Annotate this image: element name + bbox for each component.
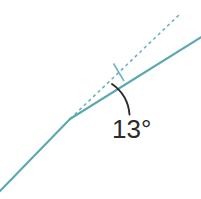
diagram-canvas: 13° bbox=[0, 0, 201, 199]
angle-label: 13° bbox=[112, 114, 151, 144]
angle-diagram-figure: 13° bbox=[0, 0, 201, 199]
